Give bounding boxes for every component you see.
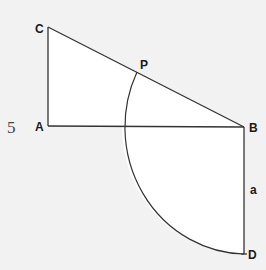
figure-number: 5: [7, 118, 16, 137]
label-b: B: [249, 121, 258, 135]
label-c: C: [35, 22, 44, 36]
label-a: A: [35, 120, 44, 134]
label-p: P: [140, 58, 148, 72]
label-segment-a: a: [250, 183, 257, 197]
geometry-diagram: C A B P D a 5: [0, 0, 266, 270]
label-d: D: [248, 248, 257, 262]
